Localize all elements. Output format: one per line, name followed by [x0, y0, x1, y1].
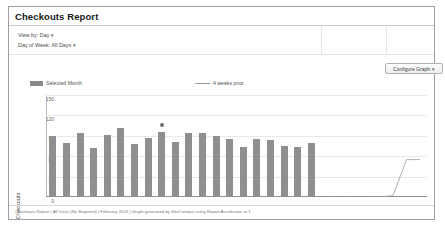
- panel-titlebar: Checkouts Report: [9, 7, 434, 26]
- divider: [386, 26, 387, 54]
- plot-area: [46, 95, 427, 197]
- footer-citation: Checkouts Report | All Visits (No Segmen…: [15, 209, 251, 214]
- chevron-down-icon: ▾: [432, 64, 435, 75]
- chart-legend: Selected Month 4 weeks prior: [9, 77, 434, 91]
- filter-bar: View by: Day▾ Day of Week: All Days▾: [9, 26, 434, 54]
- page-title: Checkouts Report: [15, 11, 98, 22]
- day-of-week-dropdown[interactable]: Day of Week: All Days▾: [18, 42, 76, 48]
- legend-swatch-selected-month: [30, 81, 43, 86]
- data-point-marker[interactable]: [160, 123, 164, 127]
- configure-graph-button[interactable]: Configure Graph▾: [385, 63, 443, 74]
- configure-graph-label: Configure Graph: [393, 66, 430, 72]
- chevron-down-icon: ▾: [51, 32, 54, 38]
- chevron-down-icon: ▾: [73, 42, 76, 48]
- panel-footer: Checkouts Report | All Visits (No Segmen…: [9, 205, 434, 219]
- view-by-dropdown[interactable]: View by: Day▾: [18, 32, 54, 38]
- legend-label-selected-month: Selected Month: [46, 80, 82, 86]
- divider: [321, 26, 322, 54]
- legend-swatch-four-weeks-prior: [195, 83, 210, 84]
- report-panel: Checkouts Report View by: Day▾ Day of We…: [8, 6, 435, 220]
- checkouts-bar-chart: Checkouts 0306090120150 1234567891011121…: [9, 91, 436, 199]
- day-of-week-label: Day of Week: All Days: [18, 42, 71, 48]
- four-weeks-prior-line: [46, 95, 427, 197]
- y-axis-tick-label: 0: [38, 198, 54, 204]
- view-by-label: View by: Day: [18, 32, 49, 38]
- legend-label-four-weeks-prior: 4 weeks prior: [213, 80, 244, 86]
- divider: [9, 54, 434, 55]
